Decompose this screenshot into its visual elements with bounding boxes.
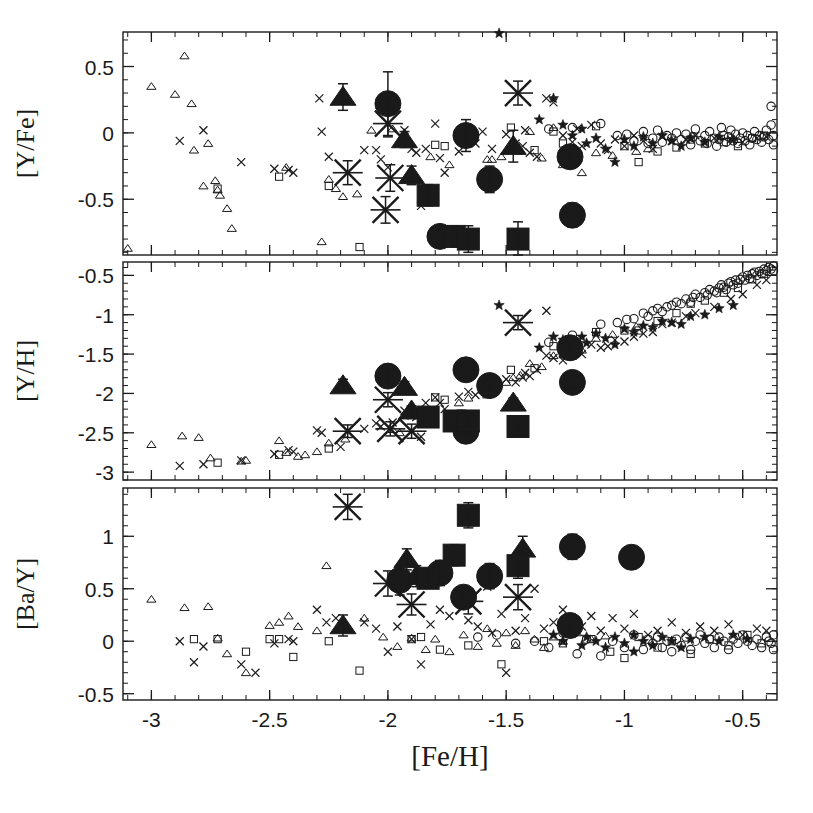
marker-open-triangle (265, 622, 274, 629)
marker-open-square (432, 141, 439, 148)
marker-open-square (498, 661, 505, 668)
marker-open-triangle (194, 434, 203, 441)
marker-x (531, 585, 539, 593)
marker-open-triangle (147, 441, 156, 448)
marker-open-square (356, 243, 363, 250)
marker-x (753, 625, 761, 633)
marker-x (497, 610, 505, 618)
marker-open-circle (597, 652, 605, 660)
marker-open-square (242, 648, 249, 655)
marker-x (315, 94, 323, 102)
marker-open-triangle (301, 451, 310, 458)
marker-x (325, 153, 333, 161)
series-x-cross (176, 94, 771, 210)
marker-open-square (290, 653, 297, 660)
marker-open-square (356, 667, 363, 674)
marker-open-triangle (577, 169, 586, 176)
y-tick-label: -2 (95, 382, 114, 405)
marker-x (540, 625, 548, 633)
marker-star (581, 138, 591, 148)
y-tick-label: -0.5 (78, 683, 114, 706)
marker-filled-circle (619, 544, 645, 570)
marker-open-circle (686, 645, 694, 653)
marker-x (542, 94, 550, 102)
marker-open-triangle (180, 604, 189, 611)
marker-open-triangle (360, 614, 369, 621)
marker-open-triangle (473, 643, 482, 650)
marker-open-triangle (459, 631, 468, 638)
marker-open-triangle (520, 627, 529, 634)
marker-x (372, 146, 380, 154)
x-tick-label: -3 (142, 708, 161, 731)
x-tick-label: -1 (615, 708, 634, 731)
marker-x (753, 281, 761, 289)
marker-open-triangle (317, 238, 326, 245)
marker-x (237, 660, 245, 668)
marker-open-circle (653, 126, 661, 134)
marker-star (494, 28, 504, 38)
marker-star (629, 327, 639, 337)
marker-x (431, 120, 439, 128)
y-axis-label: [Ba/Y] (11, 558, 40, 630)
marker-open-triangle (426, 153, 435, 160)
marker-open-circle (511, 639, 519, 647)
marker-x (176, 462, 184, 470)
marker-x (199, 126, 207, 134)
figure-root: 0.50-0.5[Y/Fe]-0.5-1-1.5-2-2.5-3[Y/H]10.… (0, 0, 813, 813)
series-open-triangle (147, 562, 610, 676)
marker-open-square (673, 310, 680, 317)
marker-star (676, 319, 686, 329)
y-tick-label: -1.5 (78, 343, 114, 366)
marker-open-triangle (591, 149, 600, 156)
marker-x (587, 612, 595, 620)
marker-open-square (190, 636, 197, 643)
y-axis-label: [Y/Fe] (11, 109, 40, 178)
marker-x (542, 307, 550, 315)
marker-open-circle (712, 288, 720, 296)
series-open-square (190, 631, 765, 674)
marker-open-triangle (275, 619, 284, 626)
marker-x (445, 612, 453, 620)
y-tick-label: -3 (95, 461, 114, 484)
marker-x (270, 165, 278, 173)
marker-star (610, 632, 620, 642)
y-axis-label: [Y/H] (11, 340, 40, 402)
marker-open-circle (717, 123, 725, 131)
marker-open-triangle (189, 146, 198, 153)
marker-x (502, 375, 510, 383)
marker-open-triangle (601, 632, 610, 639)
y-tick-label: 1 (102, 525, 114, 548)
marker-x (464, 616, 472, 624)
marker-star (600, 333, 610, 343)
marker-open-triangle (293, 623, 302, 630)
marker-x (436, 154, 444, 162)
series-open-square (214, 270, 768, 466)
marker-star (648, 322, 658, 332)
marker-open-triangle (421, 646, 430, 653)
marker-open-circle (597, 119, 605, 127)
marker-open-triangle (379, 633, 388, 640)
marker-open-circle (767, 121, 775, 129)
marker-open-circle (663, 303, 671, 311)
marker-star (534, 342, 544, 352)
marker-open-circle (757, 643, 765, 651)
marker-open-circle (649, 307, 657, 315)
marker-x (488, 145, 496, 153)
marker-open-triangle (170, 91, 179, 98)
marker-star (610, 339, 620, 349)
marker-x (609, 614, 617, 622)
panel-ba-y: 10.50-0.5[Ba/Y] (11, 488, 778, 706)
marker-star (638, 636, 648, 646)
marker-x (597, 627, 605, 635)
series-filled-star (494, 28, 738, 167)
marker-open-triangle (445, 648, 454, 655)
marker-open-circle (639, 645, 647, 653)
marker-x (521, 614, 529, 622)
y-tick-label: -2.5 (78, 422, 114, 445)
marker-open-triangle (393, 643, 402, 650)
y-tick-label: 0 (102, 630, 114, 653)
marker-star (700, 632, 710, 642)
marker-open-square (441, 396, 448, 403)
marker-open-square (621, 654, 628, 661)
marker-x (542, 352, 550, 360)
